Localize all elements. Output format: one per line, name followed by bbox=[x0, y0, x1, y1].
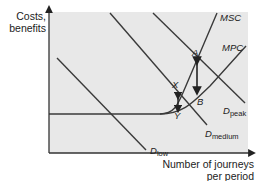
d-peak-main: D bbox=[223, 105, 230, 116]
x-axis-label: Number of journeys per period bbox=[124, 158, 254, 181]
point-y-label: Y bbox=[174, 111, 180, 121]
d-peak-label: Dpeak bbox=[223, 106, 246, 116]
d-low-label: Dlow bbox=[150, 146, 168, 156]
x-axis-label-line2: per period bbox=[124, 170, 254, 181]
point-x-label: X bbox=[172, 80, 178, 90]
mpc-label: MPC bbox=[222, 43, 243, 53]
y-axis-label: Costs, benefits bbox=[4, 10, 46, 34]
msc-label: MSC bbox=[220, 13, 241, 23]
d-medium-label: Dmedium bbox=[205, 129, 239, 139]
d-low-main: D bbox=[150, 145, 157, 156]
d-low-sub: low bbox=[157, 149, 168, 158]
y-axis-label-line1: Costs, bbox=[4, 10, 46, 22]
d-medium-main: D bbox=[205, 128, 212, 139]
point-b-label: B bbox=[197, 97, 203, 107]
d-medium-sub: medium bbox=[212, 132, 239, 141]
x-axis-label-line1: Number of journeys bbox=[124, 158, 254, 170]
y-axis-label-line2: benefits bbox=[4, 22, 46, 34]
point-a-label: A bbox=[192, 48, 198, 58]
d-peak-sub: peak bbox=[230, 109, 246, 118]
